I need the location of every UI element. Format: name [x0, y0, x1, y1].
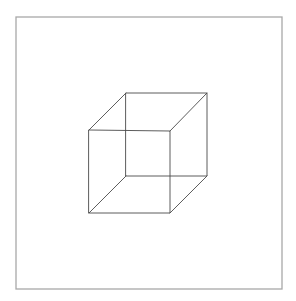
- necker-cube-figure: [0, 0, 296, 301]
- background: [0, 0, 296, 301]
